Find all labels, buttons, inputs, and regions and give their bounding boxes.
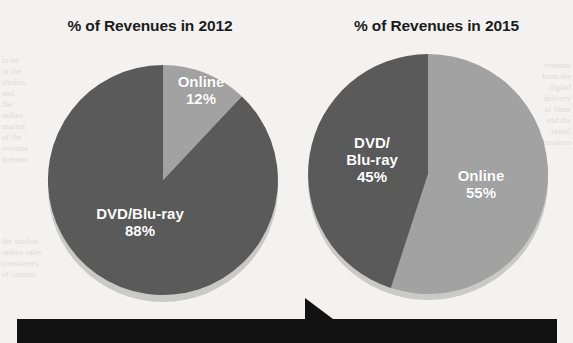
figure-canvas: to be in the studios and the online mark…: [0, 0, 573, 343]
chart-title-2015: % of Revenues in 2015: [300, 17, 573, 35]
pie-2012-slice-dvd: [48, 65, 278, 295]
pie-2012: [47, 65, 279, 307]
pie-2015: [307, 53, 549, 305]
chart-2012: % of Revenues in 2012 Online 12% DVD/Blu…: [0, 0, 300, 320]
pie-2015-svg: [307, 53, 549, 305]
bottom-banner: [17, 319, 557, 343]
pie-2012-svg: [47, 65, 279, 307]
chart-2015: % of Revenues in 2015 DVD/ Blu-ray 45% O…: [300, 0, 573, 320]
banner-arrow-icon: [305, 298, 333, 319]
chart-title-2012: % of Revenues in 2012: [0, 17, 300, 35]
